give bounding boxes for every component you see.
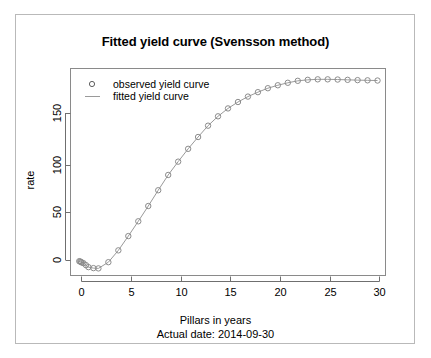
x-tick-label-20: 20 — [274, 286, 286, 298]
chart-sub-caption: Actual date: 2014-09-30 — [0, 328, 431, 340]
y-axis: 150 100 50 0 rate — [24, 104, 71, 263]
x-tick-label-25: 25 — [324, 286, 336, 298]
x-tick-label-10: 10 — [175, 286, 187, 298]
legend-label-observed: observed yield curve — [113, 78, 209, 90]
y-tick-label-0: 0 — [51, 257, 63, 263]
yield-curve-chart: Fitted yield curve (Svensson method) 150… — [0, 0, 431, 358]
observed-yield-curve-markers — [77, 77, 381, 271]
x-tick-label-30: 30 — [373, 286, 385, 298]
plot-area-svg: 150 100 50 0 rate 0 5 10 15 20 — [0, 0, 431, 358]
y-tick-label-50: 50 — [51, 206, 63, 218]
x-axis-label: Pillars in years — [0, 314, 431, 326]
x-tick-label-0: 0 — [78, 286, 84, 298]
y-axis-label: rate — [24, 171, 36, 190]
x-tick-label-5: 5 — [128, 286, 134, 298]
chart-legend: observed yield curve fitted yield curve — [85, 78, 209, 102]
y-tick-label-150: 150 — [51, 104, 63, 122]
x-tick-label-15: 15 — [224, 286, 236, 298]
legend-circle-marker-icon — [89, 81, 94, 86]
screenshot-root: Fitted yield curve (Svensson method) 150… — [0, 0, 431, 358]
legend-label-fitted: fitted yield curve — [113, 90, 189, 102]
y-tick-label-100: 100 — [51, 156, 63, 174]
fitted-yield-curve-line — [79, 79, 377, 268]
x-axis: 0 5 10 15 20 25 30 — [78, 277, 385, 299]
